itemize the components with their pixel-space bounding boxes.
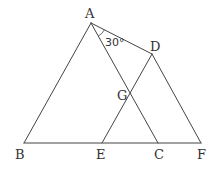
label-F: F: [197, 147, 206, 162]
segment-AB: [24, 23, 91, 143]
label-G: G: [117, 88, 127, 103]
label-C: C: [154, 147, 164, 162]
segment-AC: [91, 23, 158, 143]
angle-label-30: 30°: [105, 36, 125, 49]
label-D: D: [150, 39, 160, 54]
label-E: E: [96, 147, 106, 162]
geometry-diagram: 30° A D G B E C F: [0, 0, 222, 171]
label-B: B: [15, 147, 25, 162]
label-A: A: [84, 6, 95, 21]
angle-arc-A: [98, 30, 104, 36]
segment-DF: [152, 54, 201, 143]
